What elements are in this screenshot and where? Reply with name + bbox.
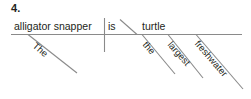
sentence-diagram-exercise: 4. alligator snapper is turtle The the l…	[0, 0, 251, 99]
diagram-subject: alligator snapper	[14, 20, 92, 32]
modifier-line-the-subject	[28, 35, 77, 74]
diagram-complement: turtle	[142, 20, 165, 32]
diagram-verb: is	[108, 20, 116, 32]
complement-slant-line	[120, 20, 137, 35]
